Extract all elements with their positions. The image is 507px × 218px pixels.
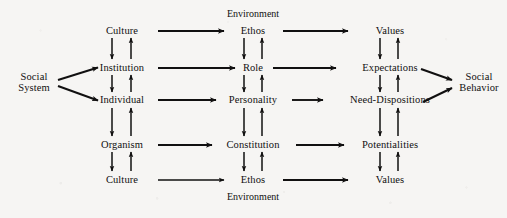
node-ethos-top: Ethos xyxy=(241,25,265,37)
node-values-bottom: Values xyxy=(376,174,405,186)
edge-social-system-to-institution xyxy=(58,68,98,81)
node-social-behavior-line2: Behavior xyxy=(459,82,498,93)
node-personality: Personality xyxy=(229,94,277,106)
node-social-system-line1: Social xyxy=(18,71,50,82)
node-social-system: Social System xyxy=(18,71,50,93)
node-constitution: Constitution xyxy=(226,139,279,151)
node-institution: Institution xyxy=(100,62,144,74)
node-potentialities: Potentialities xyxy=(362,139,418,151)
node-individual: Individual xyxy=(100,94,144,106)
boundary-label-bottom: Environment xyxy=(227,191,279,202)
edge-social-system-to-individual xyxy=(58,86,98,101)
node-ethos-bottom: Ethos xyxy=(241,174,265,186)
node-social-behavior: Social Behavior xyxy=(459,71,498,93)
node-organism: Organism xyxy=(101,139,143,151)
node-social-system-line2: System xyxy=(18,82,50,93)
node-values-top: Values xyxy=(376,25,405,37)
edge-expectations-to-social-behavior xyxy=(421,69,452,80)
node-expectations: Expectations xyxy=(362,62,417,74)
diagram-canvas: Environment Environment Social System Cu… xyxy=(0,0,507,218)
node-social-behavior-line1: Social xyxy=(459,71,498,82)
node-culture-bottom: Culture xyxy=(106,174,138,186)
node-need-dispositions: Need-Dispositions xyxy=(350,94,430,106)
boundary-label-top: Environment xyxy=(227,8,279,19)
node-role: Role xyxy=(243,62,263,74)
node-culture-top: Culture xyxy=(106,25,138,37)
